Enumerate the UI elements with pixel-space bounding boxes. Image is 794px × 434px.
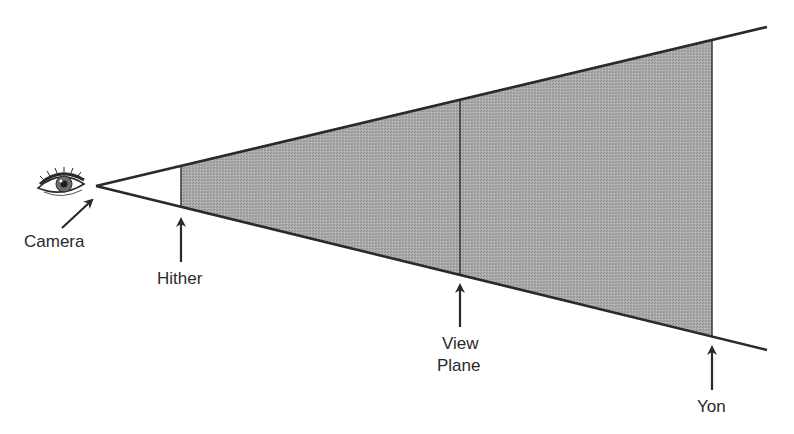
hither-label: Hither (157, 269, 203, 288)
frustum-diagram: Camera Hither View Plane Yon (0, 0, 794, 434)
camera-label: Camera (24, 232, 85, 251)
yon-label: Yon (697, 397, 726, 416)
camera-arrow (62, 202, 90, 228)
eye-icon (38, 167, 84, 196)
frustum-volume (181, 40, 712, 336)
view-plane-label-line2: Plane (437, 356, 480, 375)
view-plane-label-line1: View (442, 334, 479, 353)
